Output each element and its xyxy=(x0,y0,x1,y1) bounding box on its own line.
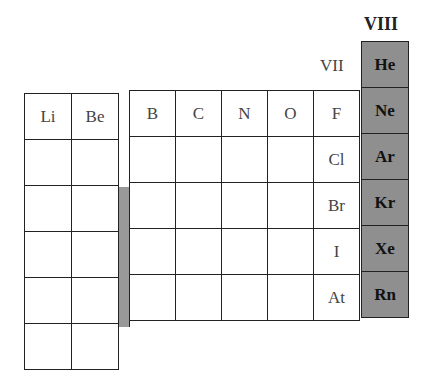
element-cell xyxy=(130,275,176,321)
table-row xyxy=(25,324,119,370)
table-row: Xe xyxy=(362,226,409,272)
element-cell xyxy=(72,324,119,370)
left-block: LiBe xyxy=(24,93,119,370)
element-cell: N xyxy=(222,91,268,137)
element-cell xyxy=(25,140,72,186)
element-cell xyxy=(72,278,119,324)
table-row: I xyxy=(130,229,360,275)
element-cell xyxy=(25,324,72,370)
element-cell xyxy=(130,183,176,229)
element-cell: I xyxy=(314,229,360,275)
element-cell: Be xyxy=(72,94,119,140)
noble-gas-cell: Kr xyxy=(362,180,409,226)
table-row: Kr xyxy=(362,180,409,226)
element-cell xyxy=(222,183,268,229)
element-cell xyxy=(268,229,314,275)
noble-gas-cell: Ne xyxy=(362,88,409,134)
noble-gas-cell: Rn xyxy=(362,272,409,318)
element-cell xyxy=(25,186,72,232)
table-row: Br xyxy=(130,183,360,229)
group-vii-label: VII xyxy=(320,56,344,76)
group-viii-label: VIII xyxy=(364,14,398,35)
element-cell xyxy=(222,137,268,183)
element-cell xyxy=(222,275,268,321)
table-row: Rn xyxy=(362,272,409,318)
element-cell xyxy=(176,137,222,183)
element-cell xyxy=(25,278,72,324)
table-row: At xyxy=(130,275,360,321)
element-cell: B xyxy=(130,91,176,137)
table-row: BCNOF xyxy=(130,91,360,137)
table-row: LiBe xyxy=(25,94,119,140)
table-row: Ar xyxy=(362,134,409,180)
element-cell xyxy=(222,229,268,275)
element-cell: Li xyxy=(25,94,72,140)
right-block: BCNOFClBrIAt xyxy=(129,90,360,321)
element-cell xyxy=(268,137,314,183)
noble-gas-cell: He xyxy=(362,42,409,88)
noble-gas-cell: Ar xyxy=(362,134,409,180)
table-row xyxy=(25,232,119,278)
element-cell: Br xyxy=(314,183,360,229)
element-cell xyxy=(72,232,119,278)
element-cell xyxy=(72,140,119,186)
element-cell: At xyxy=(314,275,360,321)
element-cell xyxy=(176,275,222,321)
element-cell xyxy=(176,183,222,229)
element-cell: O xyxy=(268,91,314,137)
element-cell xyxy=(130,229,176,275)
element-cell: Cl xyxy=(314,137,360,183)
element-cell xyxy=(268,275,314,321)
element-cell: C xyxy=(176,91,222,137)
element-cell xyxy=(268,183,314,229)
table-row: Ne xyxy=(362,88,409,134)
table-row: Cl xyxy=(130,137,360,183)
element-cell xyxy=(176,229,222,275)
table-row xyxy=(25,140,119,186)
element-cell: F xyxy=(314,91,360,137)
noble-gas-cell: Xe xyxy=(362,226,409,272)
element-cell xyxy=(25,232,72,278)
table-row: He xyxy=(362,42,409,88)
noble-gas-column: HeNeArKrXeRn xyxy=(361,41,409,318)
element-cell xyxy=(130,137,176,183)
table-row xyxy=(25,278,119,324)
table-row xyxy=(25,186,119,232)
element-cell xyxy=(72,186,119,232)
